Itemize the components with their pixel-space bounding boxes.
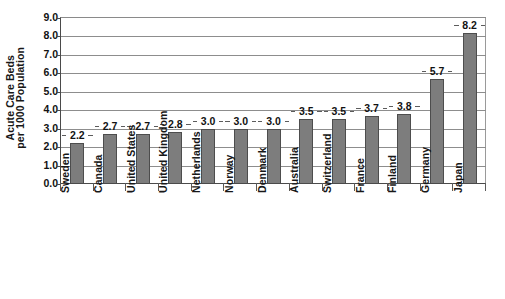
value-leader-line — [193, 121, 197, 122]
value-leader-line — [350, 111, 354, 112]
y-tick-label: 8.0 — [26, 30, 58, 41]
value-leader-line — [62, 135, 66, 136]
bar-value-label: 2.7 — [103, 121, 118, 132]
bar — [397, 114, 411, 184]
value-leader-line — [95, 126, 99, 127]
bar-chart: Acute Care Beds per 1000 Population 9.08… — [0, 0, 505, 299]
y-tick-label: 7.0 — [26, 49, 58, 60]
x-axis-label: Canada — [93, 154, 104, 193]
bar-value-label: 3.5 — [332, 106, 347, 117]
bar-value-label: 2.2 — [70, 130, 85, 141]
value-leader-line — [389, 106, 393, 107]
bar — [299, 119, 313, 184]
x-axis-label: Finland — [388, 155, 399, 193]
y-axis-tick-labels: 9.08.07.06.05.04.03.02.01.00.0 — [26, 0, 58, 195]
bar-value-label: 8.2 — [462, 20, 477, 31]
bar — [430, 79, 444, 184]
y-axis-title-line-2: per 1000 Population — [15, 47, 26, 149]
y-tick-label: 2.0 — [26, 141, 58, 152]
value-leader-line — [291, 111, 295, 112]
x-axis-label: Japan — [453, 162, 464, 193]
bar-value-label: 2.8 — [168, 119, 183, 130]
x-axis-label: Germany — [420, 147, 431, 193]
y-tick-label: 3.0 — [26, 122, 58, 133]
x-axis-label: United States — [126, 125, 137, 193]
value-leader-line — [252, 121, 256, 122]
bar — [332, 119, 346, 184]
x-axis-label: United Kingdom — [159, 111, 170, 193]
value-leader-line — [186, 124, 190, 125]
value-leader-line — [415, 106, 419, 107]
bar-value-label: 3.8 — [397, 101, 412, 112]
bar — [70, 143, 84, 184]
x-axis-label: Norway — [224, 154, 235, 193]
value-leader-line — [258, 121, 262, 122]
bar-value-label: 3.0 — [233, 116, 248, 127]
value-leader-line — [481, 25, 485, 26]
bar-value-label: 3.0 — [201, 116, 216, 127]
bar-value-label: 3.7 — [364, 103, 379, 114]
value-leader-line — [285, 121, 289, 122]
bar — [168, 132, 182, 184]
y-tick-label: 6.0 — [26, 67, 58, 78]
y-tick-label: 5.0 — [26, 86, 58, 97]
value-leader-line — [225, 121, 229, 122]
bar-value-label: 3.5 — [299, 106, 314, 117]
x-axis-label: Switzerland — [322, 134, 333, 193]
value-leader-line — [317, 111, 321, 112]
x-axis-label: Netherlands — [191, 131, 202, 193]
value-leader-line — [356, 108, 360, 109]
bar — [365, 116, 379, 184]
y-tick-label: 4.0 — [26, 104, 58, 115]
bar — [234, 129, 248, 184]
bar — [201, 129, 215, 184]
value-leader-line — [324, 111, 328, 112]
bar-value-label: 3.0 — [266, 116, 281, 127]
value-leader-line — [219, 121, 223, 122]
y-tick-label: 1.0 — [26, 159, 58, 170]
value-leader-line — [383, 108, 387, 109]
value-leader-line — [448, 71, 452, 72]
bar-value-label: 2.7 — [135, 121, 150, 132]
x-axis-label: France — [355, 158, 366, 193]
value-leader-line — [422, 71, 426, 72]
x-axis-label: Sweden — [61, 153, 72, 193]
value-leader-line — [454, 25, 458, 26]
bar — [136, 134, 150, 184]
bar — [463, 33, 477, 184]
bar — [267, 129, 281, 184]
y-tick-label: 9.0 — [26, 12, 58, 23]
bar-value-label: 5.7 — [430, 66, 445, 77]
value-leader-line — [88, 135, 92, 136]
x-axis-label: Denmark — [257, 147, 268, 193]
bar — [103, 134, 117, 184]
y-tick-label: 0.0 — [26, 178, 58, 189]
x-tick-mark — [485, 183, 486, 191]
x-axis-label: Australia — [289, 147, 300, 193]
